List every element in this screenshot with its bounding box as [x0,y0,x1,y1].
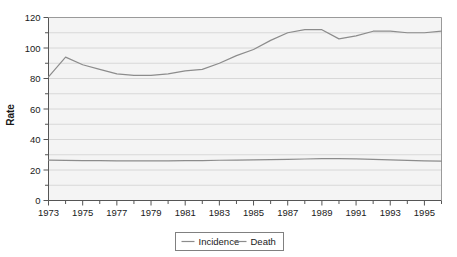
y-tick-label: 100 [25,43,41,54]
chart-page: 020406080100120 197319751977197919811983… [0,0,457,257]
chart-legend: IncidenceDeath [176,233,284,251]
legend-label-death: Death [251,236,276,247]
legend-label-incidence: Incidence [199,236,240,247]
y-tick-label: 20 [30,165,41,176]
y-tick-label: 120 [25,12,41,23]
y-axis-title: Rate [5,104,16,126]
y-tick-label: 60 [30,104,41,115]
x-tick-label: 1977 [106,207,127,218]
y-tick-label: 80 [30,73,41,84]
x-tick-label: 1979 [140,207,161,218]
x-tick-label: 1995 [414,207,435,218]
x-tick-label: 1993 [380,207,401,218]
y-tick-label: 40 [30,134,41,145]
x-tick-label: 1991 [345,207,366,218]
line-chart: 020406080100120 197319751977197919811983… [0,0,457,257]
x-tick-label: 1987 [277,207,298,218]
x-tick-label: 1983 [209,207,230,218]
x-tick-label: 1989 [311,207,332,218]
y-tick-label: 0 [35,195,40,206]
x-tick-label: 1981 [175,207,196,218]
x-tick-label: 1973 [38,207,59,218]
x-tick-label: 1985 [243,207,264,218]
x-tick-label: 1975 [72,207,93,218]
